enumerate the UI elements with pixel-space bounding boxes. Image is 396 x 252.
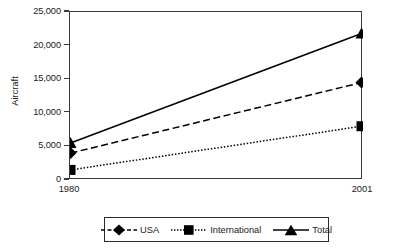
legend-label-international: International — [210, 225, 261, 235]
y-tick-label: 20,000 — [15, 40, 61, 49]
y-tick-label: 5,000 — [15, 141, 61, 150]
y-tick-label: 10,000 — [15, 107, 61, 116]
y-axis-title: Aircraft — [10, 51, 20, 131]
series-line-total — [71, 34, 362, 144]
chart-root: Aircraft 05,00010,00015,00020,00025,000 … — [0, 0, 396, 252]
legend-label-usa: USA — [140, 225, 159, 235]
data-point-international — [70, 165, 76, 175]
chart-legend: USA International Total — [104, 217, 329, 242]
y-axis-title-wrap: Aircraft — [6, 55, 22, 135]
legend-item-total[interactable]: Total — [273, 223, 332, 237]
legend-item-usa[interactable]: USA — [101, 223, 159, 237]
data-point-usa — [70, 147, 77, 159]
y-tick-label: 15,000 — [15, 74, 61, 83]
legend-item-international[interactable]: International — [171, 223, 261, 237]
plot-svg — [70, 12, 363, 180]
data-point-total — [70, 137, 77, 148]
y-tick-label: 25,000 — [15, 7, 61, 16]
plot-area — [69, 11, 362, 179]
series-line-international — [71, 126, 362, 170]
diamond-marker-icon — [101, 223, 137, 237]
series-line-usa — [71, 83, 362, 154]
data-point-total — [356, 28, 364, 39]
legend-label-total: Total — [312, 225, 332, 235]
data-point-usa — [356, 77, 364, 89]
y-tick-label: 0 — [15, 175, 61, 184]
x-tick-2001: 2001 — [332, 184, 392, 194]
x-tick-1980: 1980 — [39, 184, 99, 194]
triangle-marker-icon — [273, 223, 309, 237]
data-point-international — [357, 121, 364, 131]
square-marker-icon — [171, 223, 207, 237]
